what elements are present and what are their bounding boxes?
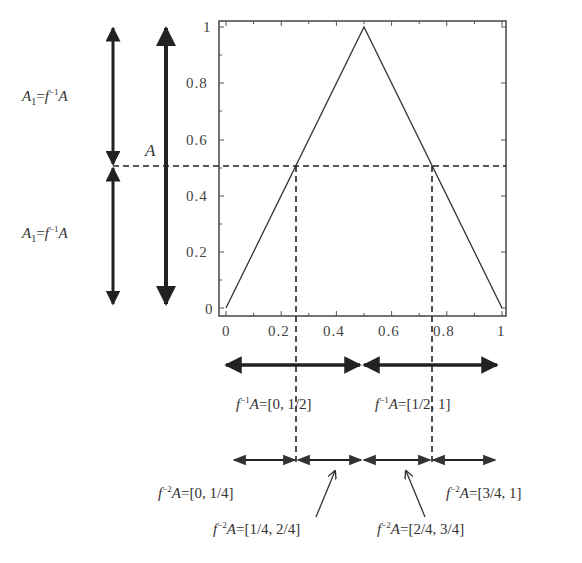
label-preimage2-1: f−2A=[1/4, 2/4] bbox=[213, 521, 300, 537]
pointer-arrows bbox=[316, 471, 425, 517]
x-tick-0.8: 0.8 bbox=[433, 324, 455, 339]
label-preimage2-2: f−2A=[2/4, 3/4] bbox=[377, 521, 464, 537]
y-tick-0.8: 0.8 bbox=[186, 76, 208, 91]
y-tick-0.4: 0.4 bbox=[186, 189, 208, 204]
label-preimage1-right: f−1A=[1/2, 1] bbox=[375, 396, 451, 412]
plot-frame bbox=[219, 21, 506, 316]
y-tick-0.6: 0.6 bbox=[186, 133, 208, 148]
x-tick-0: 0 bbox=[222, 324, 231, 339]
y-tick-0.2: 0.2 bbox=[186, 245, 208, 260]
x-tick-1: 1 bbox=[497, 324, 506, 339]
label-preimage1-left: f−1A=[0, 1/2] bbox=[236, 396, 312, 412]
label-preimage2-0: f−2A=[0, 1/4] bbox=[158, 485, 234, 501]
y-tick-0: 0 bbox=[205, 302, 214, 317]
y-tick-1: 1 bbox=[203, 20, 212, 35]
x-tick-0.6: 0.6 bbox=[378, 324, 400, 339]
tent-map-diagram bbox=[0, 0, 582, 563]
label-A1-lower: A1=f−1A bbox=[22, 225, 68, 244]
label-A: A bbox=[145, 142, 155, 159]
x-tick-0.4: 0.4 bbox=[323, 324, 345, 339]
label-preimage2-3: f−2A=[3/4, 1] bbox=[446, 485, 522, 501]
label-A1-upper: A1=f−1A bbox=[22, 88, 68, 107]
x-tick-0.2: 0.2 bbox=[268, 324, 290, 339]
tent-map-curve bbox=[226, 27, 502, 308]
